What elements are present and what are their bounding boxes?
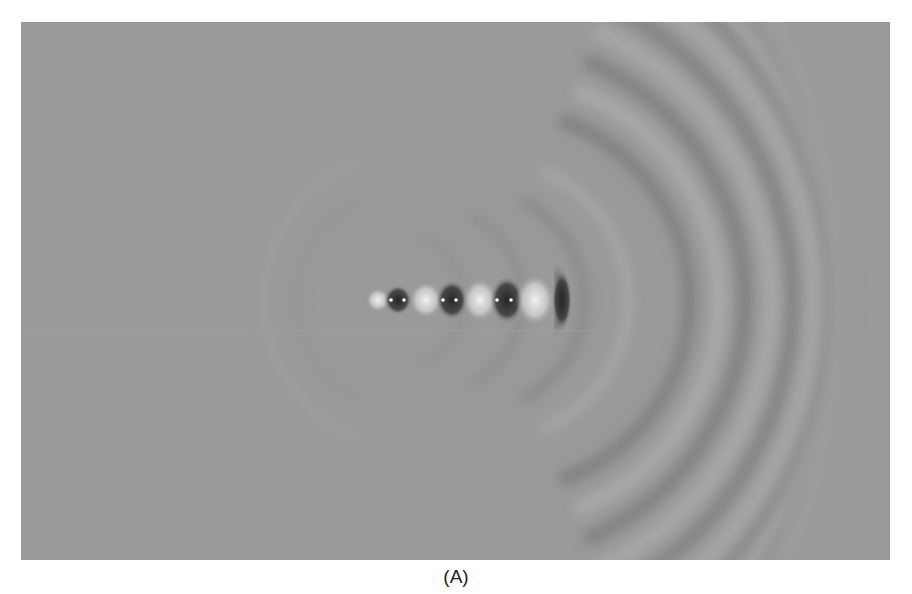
wave-pattern-graphic [21,22,890,560]
figure-caption: (A) [0,566,912,588]
wave-interference-image [21,22,890,560]
